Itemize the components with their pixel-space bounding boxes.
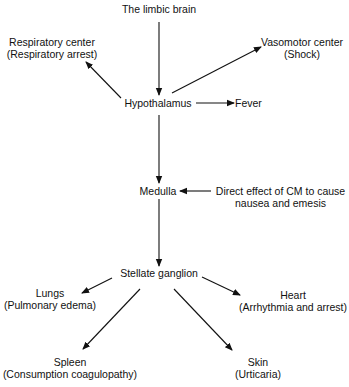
node-respiratory-center: Respiratory center (Respiratory arrest) (2, 36, 102, 60)
node-medulla: Medulla (137, 185, 179, 197)
arrow-stellate-to-heart (202, 277, 240, 295)
arrow-hypothalamus-to-respiratory (86, 62, 121, 98)
node-heart: Heart (Arrhythmia and arrest) (237, 289, 349, 313)
node-stellate-ganglion: Stellate ganglion (114, 267, 204, 279)
node-skin: Skin (Urticaria) (228, 356, 288, 380)
node-lungs: Lungs (Pulmonary edema) (0, 287, 100, 311)
arrow-stellate-to-skin (174, 289, 232, 350)
node-hypothalamus: Hypothalamus (120, 97, 196, 109)
arrow-hypothalamus-to-vasomotor (172, 47, 261, 93)
node-limbic-brain: The limbic brain (109, 3, 209, 15)
node-fever: Fever (235, 97, 265, 109)
node-cm-direct-effect: Direct effect of CM to cause nausea and … (212, 185, 349, 209)
node-spleen: Spleen (Consumption coagulopathy) (0, 356, 140, 380)
node-vasomotor-center: Vasomotor center (Shock) (255, 36, 349, 60)
